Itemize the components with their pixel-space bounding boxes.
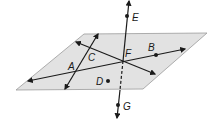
- diagram-canvas: ABCDEFG: [0, 0, 213, 129]
- point-D-dot: [106, 79, 110, 83]
- point-label-A: A: [67, 61, 75, 72]
- point-G-dot: [116, 103, 120, 107]
- geometry-diagram: ABCDEFG: [0, 0, 213, 129]
- point-label-G: G: [123, 101, 131, 112]
- point-label-C: C: [88, 52, 96, 63]
- plane: [16, 33, 207, 90]
- point-B-dot: [154, 53, 158, 57]
- point-label-D: D: [96, 76, 103, 87]
- point-label-E: E: [132, 12, 139, 23]
- point-label-B: B: [148, 42, 155, 53]
- point-E-dot: [125, 14, 129, 18]
- point-label-F: F: [125, 48, 132, 59]
